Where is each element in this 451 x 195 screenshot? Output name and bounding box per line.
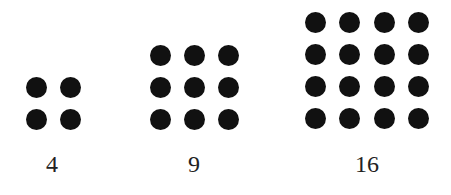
dot [305, 108, 326, 129]
dot [374, 76, 395, 97]
dot [374, 108, 395, 129]
dot [408, 76, 429, 97]
dot [26, 109, 47, 130]
dot [339, 12, 360, 33]
dot [150, 77, 171, 98]
dot [305, 44, 326, 65]
dot [218, 45, 239, 66]
dot [218, 77, 239, 98]
dot [184, 77, 205, 98]
dot [339, 76, 360, 97]
group-label-4: 4 [46, 152, 58, 176]
square-numbers-diagram: 4 9 16 [0, 0, 451, 195]
dot [60, 77, 81, 98]
dot [150, 109, 171, 130]
dot [374, 12, 395, 33]
dot [184, 45, 205, 66]
dot [408, 44, 429, 65]
group-label-16: 16 [355, 152, 379, 176]
dot [60, 109, 81, 130]
dot [339, 44, 360, 65]
dot [150, 45, 171, 66]
dot [408, 12, 429, 33]
dot [374, 44, 395, 65]
dot [408, 108, 429, 129]
dot [184, 109, 205, 130]
dot [339, 108, 360, 129]
group-label-9: 9 [188, 152, 200, 176]
dot [305, 76, 326, 97]
dot [305, 12, 326, 33]
dot [26, 77, 47, 98]
dot [218, 109, 239, 130]
